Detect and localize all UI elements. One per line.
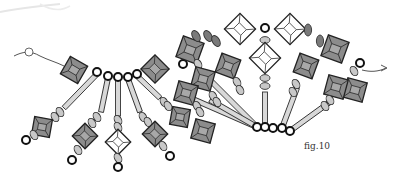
ring-bead xyxy=(261,24,269,32)
ring-bead xyxy=(124,73,132,81)
faint-background-artifact xyxy=(0,4,70,12)
beading-diagram xyxy=(0,0,412,188)
crystal-bicone-dark xyxy=(191,119,215,143)
crystal-bicone-dark xyxy=(293,53,319,79)
crystal-facet xyxy=(37,123,46,131)
crystal-bicone-light xyxy=(274,13,305,44)
ring-bead xyxy=(93,68,101,76)
thread-end-arrow xyxy=(381,65,387,71)
seed-bead xyxy=(260,83,270,90)
seed-bead xyxy=(260,75,270,82)
crystal-bicone-dark xyxy=(170,107,191,128)
crystal-bicone-light xyxy=(224,13,255,44)
bugle-bead xyxy=(116,79,121,116)
figure-label: fig.10 xyxy=(304,141,330,151)
thread-start-loop xyxy=(25,48,33,56)
crystal-facet xyxy=(175,113,184,121)
ring-bead xyxy=(269,124,277,132)
crystal-bicone-dark xyxy=(141,55,169,83)
ring-bead xyxy=(356,59,364,67)
crystal-bicone-light xyxy=(105,129,130,154)
crystal-bicone-light xyxy=(249,42,280,73)
ring-bead xyxy=(133,70,141,78)
ring-bead xyxy=(114,163,122,171)
ring-bead xyxy=(253,123,261,131)
crystal-bicone-dark xyxy=(60,56,87,83)
ring-bead xyxy=(261,123,269,131)
thread-start xyxy=(14,52,64,66)
ring-bead xyxy=(22,136,30,144)
oval-drop-bead xyxy=(304,24,311,36)
ring-bead xyxy=(286,127,294,135)
ring-bead xyxy=(104,72,112,80)
bugle-bead xyxy=(126,78,143,113)
ring-bead xyxy=(179,60,187,68)
crystal-bicone-dark xyxy=(321,35,349,63)
oval-drop-bead xyxy=(316,35,323,47)
crystal-bicone-dark xyxy=(215,53,241,79)
ring-bead xyxy=(166,152,174,160)
ring-bead xyxy=(114,73,122,81)
bugle-bead xyxy=(99,77,111,112)
ring-bead xyxy=(68,156,76,164)
bugle-bead xyxy=(263,92,268,127)
ring-bead xyxy=(278,124,286,132)
